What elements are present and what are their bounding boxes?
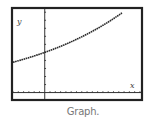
graph-frame bbox=[12, 8, 142, 100]
x-axis-label: x bbox=[130, 81, 135, 90]
y-axis-label: y bbox=[16, 17, 22, 26]
figure-caption: Graph. bbox=[0, 106, 166, 117]
